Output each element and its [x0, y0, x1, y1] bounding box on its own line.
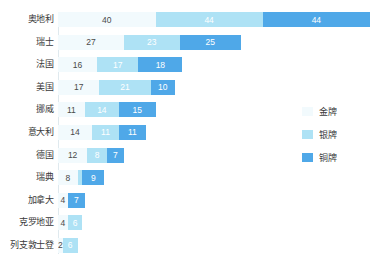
stacked-bar: 26: [58, 238, 376, 253]
legend-swatch-icon: [302, 153, 313, 162]
segment-value-label: 10: [158, 82, 167, 92]
legend-swatch-icon: [302, 107, 313, 116]
gold-segment: 16: [58, 57, 97, 72]
silver-segment: 23: [124, 35, 180, 50]
segment-value-label: 25: [206, 37, 215, 47]
bronze-segment: 15: [119, 102, 156, 117]
bronze-segment: 18: [138, 57, 182, 72]
gold-segment: 12: [58, 148, 87, 163]
bar-row: 瑞士272325: [0, 35, 376, 50]
segment-value-label: 44: [204, 15, 213, 25]
segment-value-label: 4: [61, 195, 66, 205]
segment-value-label: 8: [95, 150, 100, 160]
bronze-segment: 9: [82, 170, 104, 185]
silver-segment: 6: [68, 215, 83, 230]
segment-value-label: 18: [156, 60, 165, 70]
silver-segment: 11: [92, 125, 119, 140]
segment-value-label: 23: [147, 37, 156, 47]
gold-segment: 8: [58, 170, 78, 185]
category-label: 意大利: [0, 125, 58, 140]
category-label: 列支敦士登: [0, 238, 58, 253]
segment-value-label: 14: [97, 105, 106, 115]
silver-segment: 14: [85, 102, 119, 117]
bar-row: 瑞典89: [0, 170, 376, 185]
category-label: 奥地利: [0, 12, 58, 27]
segment-value-label: 17: [74, 82, 83, 92]
legend-label: 银牌: [319, 128, 337, 141]
segment-value-label: 11: [101, 127, 110, 137]
gold-segment: 14: [58, 125, 92, 140]
segment-value-label: 44: [312, 15, 321, 25]
segment-value-label: 12: [68, 150, 77, 160]
segment-value-label: 8: [65, 173, 70, 183]
category-label: 瑞士: [0, 35, 58, 50]
segment-value-label: 6: [73, 218, 78, 228]
bronze-segment: 44: [263, 12, 370, 27]
stacked-bar: 404444: [58, 12, 376, 27]
gold-segment: 4: [58, 193, 68, 208]
stacked-bar: 46: [58, 215, 376, 230]
segment-value-label: 7: [74, 195, 79, 205]
category-label: 德国: [0, 148, 58, 163]
segment-value-label: 6: [68, 240, 73, 250]
silver-segment: 17: [97, 57, 138, 72]
bronze-segment: 7: [68, 193, 85, 208]
gold-segment: 11: [58, 102, 85, 117]
category-label: 挪威: [0, 102, 58, 117]
bar-row: 奥地利404444: [0, 12, 376, 27]
category-label: 加拿大: [0, 193, 58, 208]
category-label: 法国: [0, 57, 58, 72]
stacked-bar: 272325: [58, 35, 376, 50]
stacked-bar: 89: [58, 170, 376, 185]
segment-value-label: 11: [67, 105, 76, 115]
category-label: 美国: [0, 80, 58, 95]
gold-segment: 27: [58, 35, 124, 50]
stacked-bar: 47: [58, 193, 376, 208]
category-label: 克罗地亚: [0, 215, 58, 230]
legend-swatch-icon: [302, 130, 313, 139]
bar-row: 克罗地亚46: [0, 215, 376, 230]
silver-segment: 8: [87, 148, 107, 163]
silver-segment: 6: [63, 238, 78, 253]
segment-value-label: 17: [113, 60, 122, 70]
bronze-segment: 7: [107, 148, 124, 163]
segment-value-label: 11: [128, 127, 137, 137]
bronze-segment: 11: [119, 125, 146, 140]
legend-label: 铜牌: [319, 151, 337, 164]
chart-legend: 金牌银牌铜牌: [302, 103, 364, 172]
legend-item[interactable]: 银牌: [302, 126, 364, 142]
medal-count-stacked-bar-chart: 奥地利404444瑞士272325法国161718美国172110挪威11141…: [0, 0, 376, 266]
bar-row: 美国172110: [0, 80, 376, 95]
silver-segment: 21: [99, 80, 150, 95]
legend-item[interactable]: 金牌: [302, 103, 364, 119]
silver-segment: 44: [156, 12, 263, 27]
segment-value-label: 40: [102, 15, 111, 25]
segment-value-label: 4: [61, 218, 66, 228]
category-label: 瑞典: [0, 170, 58, 185]
bar-row: 加拿大47: [0, 193, 376, 208]
segment-value-label: 27: [86, 37, 95, 47]
gold-segment: 4: [58, 215, 68, 230]
bronze-segment: 25: [180, 35, 241, 50]
segment-value-label: 9: [91, 173, 96, 183]
segment-value-label: 16: [73, 60, 82, 70]
bar-row: 列支敦士登26: [0, 238, 376, 253]
segment-value-label: 7: [113, 150, 118, 160]
legend-label: 金牌: [319, 105, 337, 118]
segment-value-label: 21: [120, 82, 129, 92]
bronze-segment: 10: [151, 80, 175, 95]
bar-row: 法国161718: [0, 57, 376, 72]
stacked-bar: 172110: [58, 80, 376, 95]
segment-value-label: 15: [132, 105, 141, 115]
gold-segment: 17: [58, 80, 99, 95]
segment-value-label: 14: [70, 127, 79, 137]
legend-item[interactable]: 铜牌: [302, 149, 364, 165]
stacked-bar: 161718: [58, 57, 376, 72]
gold-segment: 40: [58, 12, 156, 27]
